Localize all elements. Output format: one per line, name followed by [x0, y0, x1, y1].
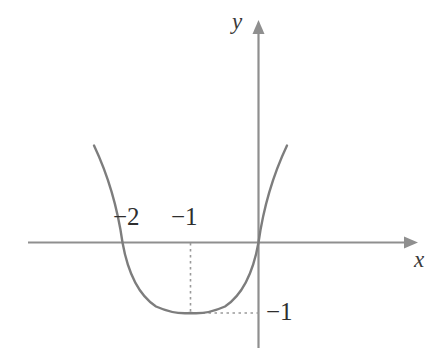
y-axis-label: y [232, 10, 242, 33]
x-tick-label-neg2: −2 [113, 204, 140, 229]
parabola-figure: y x −2 −1 −1 [0, 0, 439, 360]
plot-canvas [0, 0, 439, 360]
x-tick-label-neg1: −1 [171, 204, 198, 229]
x-axis-label: x [414, 248, 424, 271]
y-tick-label-neg1: −1 [266, 299, 293, 324]
y-axis-arrow-icon [253, 20, 265, 34]
